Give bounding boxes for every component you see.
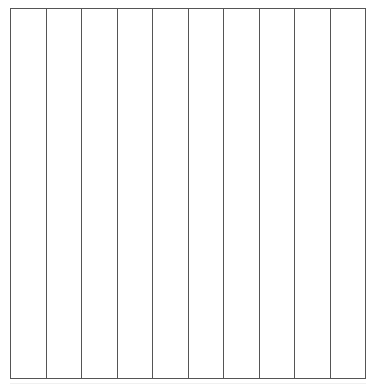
empty-column-grid xyxy=(10,8,366,379)
grid-cell-9 xyxy=(295,9,331,379)
grid-cell-5 xyxy=(153,9,189,379)
figure-canvas xyxy=(0,0,375,391)
table-row xyxy=(11,9,366,379)
grid-cell-7 xyxy=(224,9,260,379)
grid-cell-2 xyxy=(46,9,82,379)
grid-cell-10 xyxy=(330,9,366,379)
grid-cell-6 xyxy=(188,9,224,379)
grid-cell-1 xyxy=(11,9,47,379)
grid-cell-4 xyxy=(117,9,153,379)
bottom-edge-artifact xyxy=(10,383,366,384)
grid-body xyxy=(11,9,366,379)
grid-cell-3 xyxy=(82,9,118,379)
grid-cell-8 xyxy=(259,9,295,379)
